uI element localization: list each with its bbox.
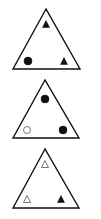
triangle-panel-2	[13, 80, 79, 138]
hollow-triangle-icon	[24, 196, 31, 203]
filled-circle-icon	[24, 57, 32, 65]
triangle-panel-1	[13, 9, 80, 69]
hollow-circle-icon	[24, 127, 31, 134]
triangle-panel-3	[13, 149, 79, 208]
triangle-outline	[13, 149, 79, 208]
hollow-triangle-icon	[42, 161, 49, 168]
filled-circle-icon	[59, 126, 67, 134]
filled-circle-icon	[41, 95, 49, 103]
triangle-outline	[13, 80, 79, 138]
diagram-canvas	[0, 0, 101, 219]
filled-triangle-icon	[58, 196, 65, 203]
triangle-outline	[13, 9, 80, 69]
filled-triangle-icon	[61, 58, 68, 65]
filled-triangle-icon	[43, 21, 50, 28]
